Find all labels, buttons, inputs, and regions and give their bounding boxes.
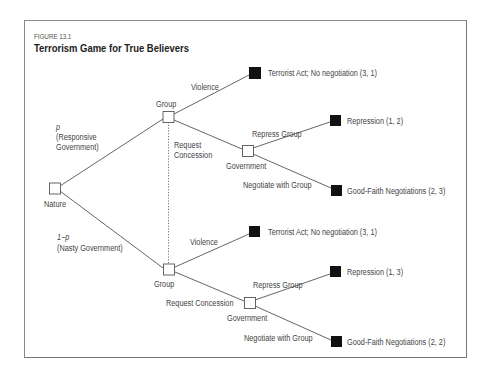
lower-violence-label: Violence <box>190 237 218 248</box>
government-node-nasty <box>245 298 256 309</box>
edge-upper-violence <box>174 75 249 114</box>
lower-repress-label: Repress Group <box>253 280 303 291</box>
upper-violence-label: Violence <box>191 82 219 93</box>
nature-label: Nature <box>44 199 66 210</box>
upper-negotiate-label: Negotiate with Group <box>243 180 312 191</box>
responsive-government-label-2: Government) <box>56 142 99 153</box>
outcome-label-1: Terrorist Act; No negotiation (3, 1) <box>268 68 377 79</box>
outcome-label-5: Repression (1, 3) <box>347 267 403 278</box>
group-nasty-label: Group <box>154 279 174 290</box>
terminal-node-6 <box>331 336 342 347</box>
upper-request-label-1: Request <box>174 140 201 151</box>
government-node-responsive <box>243 146 254 157</box>
outcome-label-4: Terrorist Act; No negotiation (3, 1) <box>268 227 377 238</box>
upper-repress-label: Repress Group <box>252 129 302 140</box>
group-responsive-label: Group <box>156 99 176 110</box>
outcome-label-2: Repression (1, 2) <box>347 116 403 127</box>
edge-nature-nasty <box>60 191 163 268</box>
nasty-government-label: (Nasty Government) <box>57 243 123 254</box>
terminal-node-4 <box>249 226 260 237</box>
terminal-node-2 <box>330 115 341 126</box>
group-node-responsive <box>163 112 174 123</box>
lower-negotiate-label: Negotiate with Group <box>244 333 313 344</box>
edge-lower-request <box>175 272 244 301</box>
outcome-label-6: Good-Faith Negotiations (2, 2) <box>347 337 445 348</box>
upper-request-label-2: Concession <box>174 150 212 161</box>
outcome-label-3: Good-Faith Negotiations (2, 3) <box>347 186 445 197</box>
lower-request-label: Request Concession <box>166 298 233 309</box>
responsive-government-label-1: (Responsive <box>56 132 97 143</box>
terminal-node-3 <box>331 185 342 196</box>
probability-1-minus-p: 1−p <box>57 232 69 243</box>
edge-nature-responsive <box>60 119 163 186</box>
nature-node <box>50 183 61 194</box>
terminal-node-5 <box>330 266 341 277</box>
probability-p: p <box>56 122 60 133</box>
group-node-nasty <box>164 264 175 275</box>
government-nasty-label: Government <box>227 313 267 324</box>
terminal-node-1 <box>249 67 261 79</box>
government-responsive-label: Government <box>226 161 266 172</box>
